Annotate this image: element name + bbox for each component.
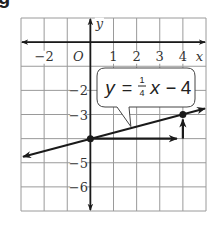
y-axis-label: y (95, 16, 104, 31)
x-tick-label: 4 (179, 49, 187, 64)
point (87, 135, 94, 142)
equation-callout: y=14x−4 (97, 68, 195, 127)
y-tick-label: −2 (69, 83, 88, 98)
y-tick-label: −5 (69, 156, 88, 171)
x-tick-label: −2 (35, 49, 54, 64)
equation-equals: = (122, 78, 133, 98)
coordinate-graph: −21234Oxy−2−3−5−6 y=14x−4 (0, 0, 207, 227)
y-tick-label: −3 (69, 108, 88, 123)
x-tick-label: 3 (156, 49, 164, 64)
x-tick-label: 1 (109, 49, 117, 64)
equation-minus: − (166, 78, 177, 98)
fraction-numerator: 1 (139, 75, 144, 85)
fraction-denominator: 4 (139, 88, 144, 98)
point (179, 111, 186, 118)
x-axis-label: x (196, 49, 204, 64)
equation-variable: x (149, 77, 161, 98)
equation-lhs: y (103, 77, 116, 98)
equation-constant: 4 (181, 77, 192, 98)
grid-lines (21, 18, 206, 211)
y-tick-label: −6 (69, 180, 88, 195)
origin-label: O (73, 49, 84, 64)
x-tick-label: 2 (132, 49, 140, 64)
